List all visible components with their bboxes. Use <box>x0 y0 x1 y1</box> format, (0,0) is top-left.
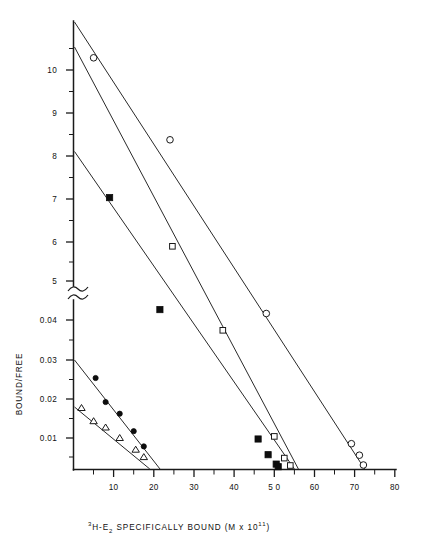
data-point-filled-square <box>157 307 163 313</box>
data-point-filled-square <box>255 436 261 442</box>
data-point-open-triangle <box>132 446 139 452</box>
x-tick-label-80: 80 <box>390 483 400 492</box>
x-tick-label-50: 5 0 <box>268 483 280 492</box>
data-point-open-square <box>288 463 294 469</box>
data-point-open-square <box>170 244 176 250</box>
y-tick-label-0-03: 0.03 <box>40 356 57 365</box>
y-ticks-upper <box>66 49 74 282</box>
data-point-open-circle <box>348 440 355 447</box>
markers-open-triangle <box>78 405 148 460</box>
data-point-open-square <box>272 434 278 440</box>
data-point-open-circle <box>263 310 270 317</box>
data-point-filled-circle <box>131 429 136 434</box>
x-axis-title: 3H-E2 SPECIFICALLY BOUND (M x 1011) <box>88 521 270 534</box>
data-point-filled-circle <box>103 399 108 404</box>
data-point-filled-circle <box>93 375 98 380</box>
x-tick-label-70: 70 <box>350 483 360 492</box>
fit-line-open-triangle <box>75 407 150 469</box>
markers-open-circle <box>90 55 366 469</box>
data-point-open-circle <box>90 55 97 62</box>
data-point-open-triangle <box>140 454 147 460</box>
data-point-open-circle <box>356 452 363 459</box>
y-tick-labels: 10 9 8 7 6 5 0.04 0.03 0.02 0.01 <box>40 66 57 443</box>
x-tick-label-30: 30 <box>189 483 199 492</box>
data-point-filled-square <box>265 452 271 458</box>
y-tick-label-8: 8 <box>52 152 57 161</box>
data-point-open-circle <box>360 462 367 469</box>
x-tick-labels: 10 20 30 40 5 0 60 70 80 <box>109 483 400 492</box>
data-point-open-circle <box>167 137 174 144</box>
x-axis-title-main-2: SPECIFICALLY BOUND (M x 10 <box>113 523 258 532</box>
fit-line-open-square <box>75 47 299 469</box>
scatchard-plot-figure: 10 9 8 7 6 5 0.04 0.03 0.02 0.01 BOUND/F… <box>0 0 423 554</box>
fit-line-open-circle <box>75 22 365 469</box>
data-point-open-triangle <box>116 435 123 441</box>
data-point-open-square <box>220 328 226 334</box>
x-axis-title-sup-11: 11 <box>258 521 266 527</box>
x-tick-label-60: 60 <box>310 483 320 492</box>
y-tick-label-0-02: 0.02 <box>40 395 57 404</box>
data-point-filled-square <box>107 195 113 201</box>
y-tick-label-0-01: 0.01 <box>40 434 57 443</box>
data-point-filled-square <box>275 464 281 470</box>
data-point-filled-circle <box>117 411 122 416</box>
axis-break-marks <box>68 287 88 299</box>
x-axis-title-main-3: ) <box>266 523 270 532</box>
x-tick-label-10: 10 <box>109 483 119 492</box>
data-point-open-triangle <box>102 424 109 430</box>
y-axis-title: BOUND/FREE <box>15 353 24 416</box>
plot-canvas: 10 9 8 7 6 5 0.04 0.03 0.02 0.01 BOUND/F… <box>0 0 423 554</box>
y-ticks-lower <box>66 320 74 457</box>
x-tick-label-20: 20 <box>149 483 159 492</box>
y-tick-label-0-04: 0.04 <box>40 316 57 325</box>
markers-open-square <box>170 244 294 469</box>
y-tick-label-9: 9 <box>52 109 57 118</box>
fit-lines <box>75 22 365 469</box>
x-tick-label-40: 40 <box>229 483 239 492</box>
y-tick-label-5: 5 <box>52 277 57 286</box>
data-point-open-square <box>282 455 288 461</box>
axis-group <box>74 21 397 470</box>
x-axis-title-main-1: H-E <box>92 523 109 532</box>
y-tick-label-7: 7 <box>52 195 57 204</box>
x-ticks <box>94 470 395 478</box>
y-tick-label-10: 10 <box>47 66 57 75</box>
y-tick-label-6: 6 <box>52 238 57 247</box>
data-point-open-triangle <box>78 405 85 411</box>
data-point-filled-circle <box>141 444 146 449</box>
